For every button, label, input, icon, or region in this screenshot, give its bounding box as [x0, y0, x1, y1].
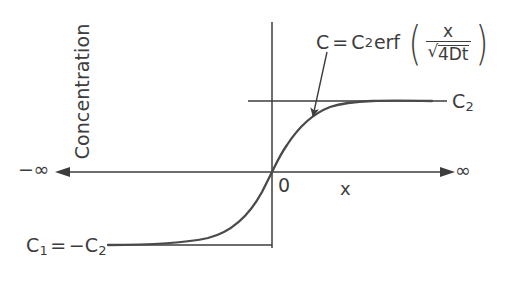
equation-denominator: √4Dt: [426, 42, 471, 63]
lower-asymptote-equals-sign: =: [50, 234, 66, 256]
equation-fraction: x √4Dt: [426, 23, 471, 63]
lower-asymptote-lhs-symbol: C: [26, 234, 39, 256]
equation-numerator: x: [438, 23, 458, 41]
x-axis-positive-infinity-label: ∞: [455, 161, 471, 180]
equation-equals-sign: =: [332, 33, 348, 52]
y-axis-label: Concentration: [73, 2, 92, 182]
lower-asymptote-rhs-symbol: C: [85, 234, 98, 256]
upper-asymptote-symbol: C: [452, 90, 465, 112]
lower-asymptote-rhs-subscript: 2: [98, 243, 106, 258]
equation-radicand: 4Dt: [438, 45, 469, 64]
upper-asymptote-label: C2: [452, 92, 474, 113]
radical-sign-icon: √: [428, 43, 439, 60]
figure-canvas: −∞ ∞ 0 x Concentration C2 C1=−C2 C=C2erf…: [0, 0, 505, 293]
equation-coefficient: C: [351, 33, 364, 52]
equation-lhs: C: [316, 33, 329, 52]
erf-curve: [108, 101, 432, 245]
equation-radical: √4Dt: [428, 43, 469, 63]
erf-equation: C=C2erf( x √4Dt ): [316, 22, 490, 62]
lower-asymptote-lhs-subscript: 1: [40, 243, 48, 258]
lower-asymptote-label: C1=−C2: [26, 236, 107, 257]
x-axis-negative-infinity-label: −∞: [18, 160, 49, 179]
origin-label: 0: [278, 176, 290, 195]
equation-coefficient-subscript: 2: [365, 36, 373, 49]
x-axis-label: x: [340, 180, 351, 198]
equation-erf-function: erf: [374, 33, 400, 52]
lower-asymptote-minus-sign: −: [69, 234, 85, 256]
upper-asymptote-subscript: 2: [466, 99, 474, 114]
